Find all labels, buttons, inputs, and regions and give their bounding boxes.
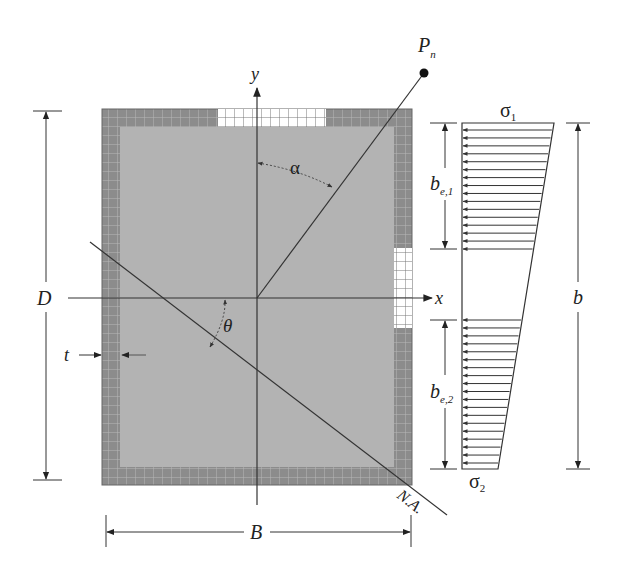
plate-width-label: b xyxy=(573,286,583,308)
depth-dimension: D xyxy=(33,111,62,480)
depth-label: D xyxy=(36,287,52,309)
plate-width-dimension: b xyxy=(566,123,590,469)
y-axis-label: y xyxy=(249,64,259,84)
theta-label: θ xyxy=(223,315,232,336)
thickness-label: t xyxy=(64,345,70,365)
sigma1-label: σ1 xyxy=(500,99,516,123)
width-dimension: B xyxy=(106,515,411,547)
sigma2-label: σ2 xyxy=(469,470,485,494)
effective-stress-arrows-lower xyxy=(463,320,521,463)
right-ineffective-zone xyxy=(394,248,412,328)
alpha-label: α xyxy=(290,157,300,178)
load-point xyxy=(420,69,429,78)
stress-distribution: σ1 σ2 xyxy=(462,99,554,494)
be1-label: be,1 xyxy=(430,172,453,197)
load-label: Pn xyxy=(417,34,436,60)
x-axis-label: x xyxy=(434,288,443,308)
neutral-axis-label: N.A. xyxy=(393,485,427,517)
width-label: B xyxy=(250,521,262,543)
be2-label: be,2 xyxy=(430,380,454,405)
effective-width-2-dimension: be,2 xyxy=(430,320,457,469)
effective-width-1-dimension: be,1 xyxy=(430,123,457,249)
effective-stress-arrows-upper xyxy=(463,130,552,249)
top-ineffective-zone xyxy=(218,109,326,127)
section-diagram: y x Pn α N.A. θ D t B σ1 σ2 xyxy=(0,0,619,573)
